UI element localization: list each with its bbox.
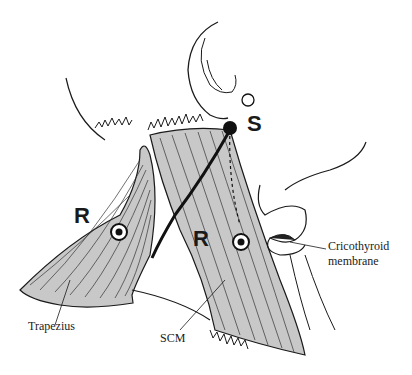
trapezius-label: Trapezius <box>28 320 75 334</box>
s-label: S <box>247 113 262 135</box>
r-target-trapezius <box>111 224 127 240</box>
r-target-scm <box>233 234 249 250</box>
cricothyroid-label-line1: Cricothyroid <box>328 240 389 254</box>
s-point-marker <box>223 121 237 135</box>
cricothyroid-label-line2: membrane <box>328 255 379 269</box>
ear-outline <box>188 22 236 119</box>
r-label-trapezius: R <box>74 205 90 227</box>
open-circle-marker <box>242 94 254 106</box>
cricothyroid-leader-line <box>290 242 326 249</box>
scm-label: SCM <box>160 332 185 346</box>
shoulder-outline <box>132 290 210 320</box>
neck-anatomy-diagram: S R R Trapezius SCM Cricothyroid membran… <box>0 0 412 375</box>
trapezius-muscle <box>20 78 155 307</box>
r-label-scm: R <box>193 228 209 250</box>
jaw-outline <box>285 142 366 190</box>
